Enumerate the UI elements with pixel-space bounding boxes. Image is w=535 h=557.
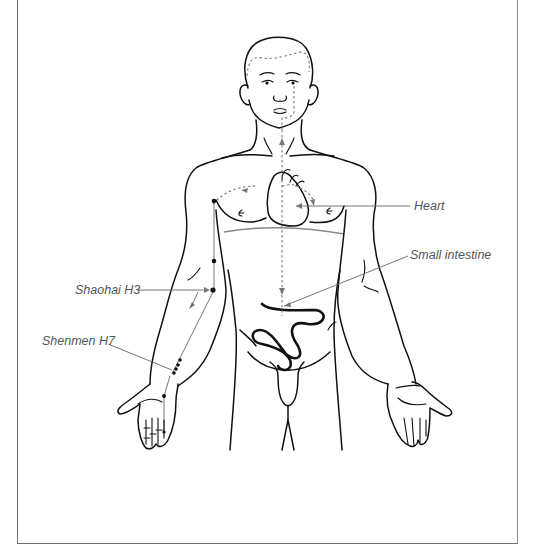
meridian-path	[189, 130, 315, 316]
torso	[150, 150, 416, 450]
head	[240, 37, 318, 154]
shaohai-point	[210, 287, 215, 292]
heart-organ	[267, 169, 308, 226]
shenmen-label: Shenmen H7	[42, 334, 115, 348]
left-hand	[118, 384, 178, 449]
heart-label: Heart	[414, 199, 445, 213]
small-intestine-organ	[253, 304, 324, 370]
small-intestine-label: Small intestine	[410, 248, 491, 262]
arm-meridian	[162, 199, 216, 434]
body-illustration	[0, 0, 535, 557]
right-hand	[387, 382, 452, 447]
shaohai-label: Shaohai H3	[75, 283, 140, 297]
right-nipple	[327, 208, 332, 214]
shenmen-point	[172, 371, 176, 375]
left-nipple	[239, 210, 244, 216]
shenmen-leader	[108, 344, 172, 370]
